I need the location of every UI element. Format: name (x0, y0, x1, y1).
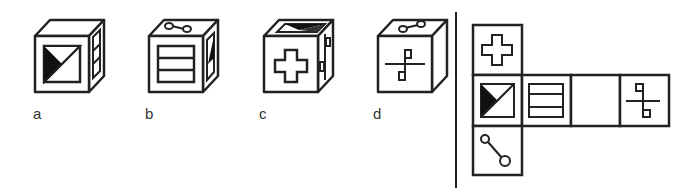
net-cell-half-shaded (473, 75, 522, 126)
net-cell-stripes (522, 75, 571, 126)
cube-option-a[interactable] (30, 14, 110, 104)
half-shaded-square-icon (207, 33, 214, 80)
half-shaded-square-icon (277, 24, 325, 32)
half-shaded-square-icon (481, 84, 514, 117)
net-cell-circles (473, 126, 522, 175)
cube-option-b[interactable] (144, 14, 224, 104)
option-label-a: a (33, 105, 41, 122)
hook-symbol-icon (626, 84, 660, 117)
net-cell-cross (473, 25, 522, 75)
net-cell-blank (571, 75, 620, 126)
three-stripes-icon (529, 84, 563, 117)
cross-icon (482, 35, 512, 65)
cube-option-c[interactable] (259, 14, 339, 104)
cube-option-d[interactable] (373, 14, 453, 104)
option-label-b: b (145, 105, 153, 122)
option-label-d: d (373, 105, 381, 122)
net-cell-hook (620, 75, 669, 126)
divider-line (455, 12, 457, 188)
connected-circles-icon (481, 135, 510, 166)
option-label-c: c (259, 105, 267, 122)
